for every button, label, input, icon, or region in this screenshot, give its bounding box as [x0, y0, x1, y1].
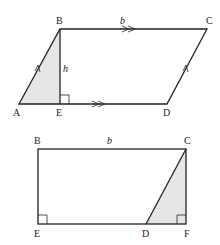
- vertex-label-e: E: [34, 228, 40, 239]
- right-angle-marker-e: [60, 95, 69, 104]
- base-label-b: b: [120, 15, 125, 26]
- vertex-label-b: B: [34, 135, 41, 146]
- vertex-label-c: C: [206, 15, 213, 26]
- vertex-label-a: A: [13, 107, 21, 118]
- vertex-label-e: E: [56, 107, 62, 118]
- geometry-diagram: A B C D E b h B C D E F b: [0, 0, 220, 245]
- vertex-label-f: F: [184, 228, 190, 239]
- height-label-h: h: [63, 63, 68, 74]
- parallelogram-figure: A B C D E b h: [13, 15, 213, 118]
- vertex-label-d: D: [163, 107, 170, 118]
- vertex-label-b: B: [56, 15, 63, 26]
- rectangle-figure: B C D E F b: [34, 135, 191, 239]
- vertex-label-c: C: [184, 135, 191, 146]
- right-angle-marker-e: [38, 215, 47, 224]
- base-label-b: b: [107, 135, 112, 146]
- vertex-label-d: D: [142, 228, 149, 239]
